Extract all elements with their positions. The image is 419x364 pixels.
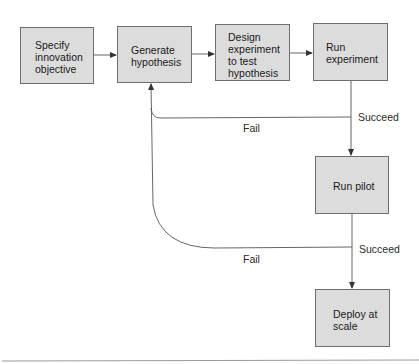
- node-label: Generate hypothesis: [131, 44, 181, 68]
- node-generate-hypothesis: Generate hypothesis: [117, 26, 192, 83]
- node-label: Specify innovation objective: [35, 39, 83, 75]
- node-design-experiment: Design experiment to test hypothesis: [215, 24, 290, 81]
- edge-label-succeed-2: Succeed: [359, 243, 400, 255]
- node-deploy-at-scale: Deploy at scale: [315, 289, 390, 347]
- fail-loop-1: [151, 108, 351, 118]
- edge-label-succeed-1: Succeed: [358, 111, 399, 123]
- bottom-rule: [2, 360, 419, 361]
- node-run-experiment: Run experiment: [313, 23, 388, 81]
- node-specify-objective: Specify innovation objective: [20, 27, 94, 84]
- node-label: Design experiment to test hypothesis: [228, 31, 280, 79]
- node-label: Deploy at scale: [333, 308, 377, 332]
- node-label: Run experiment: [326, 41, 378, 65]
- node-run-pilot: Run pilot: [315, 156, 389, 214]
- node-label: Run pilot: [333, 180, 374, 192]
- edge-label-fail-2: Fail: [243, 253, 260, 265]
- edge-label-fail-1: Fail: [243, 122, 260, 134]
